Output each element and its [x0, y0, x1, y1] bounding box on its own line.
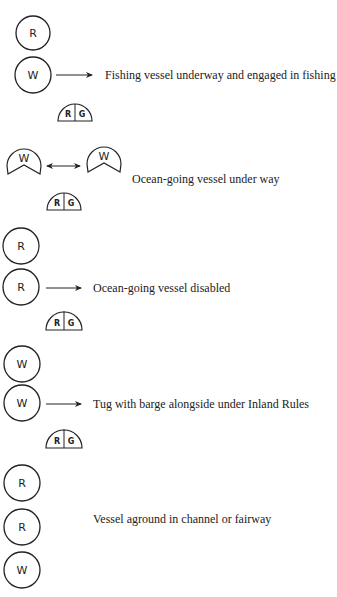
light-circle-white: W — [15, 57, 51, 93]
svg-text:R: R — [65, 110, 71, 119]
svg-text:R: R — [18, 521, 26, 534]
light-circle-red: R — [16, 16, 50, 50]
light-circle-red: R — [3, 269, 39, 305]
svg-text:W: W — [17, 358, 28, 371]
svg-text:G: G — [68, 437, 75, 446]
group-ocean-going-disabled: R R R G — [3, 228, 82, 330]
svg-text:W: W — [17, 397, 28, 410]
light-circle-white: W — [4, 552, 40, 588]
svg-text:W: W — [17, 564, 28, 577]
light-circle-white: W — [4, 385, 40, 421]
svg-text:R: R — [17, 281, 25, 294]
svg-text:G: G — [68, 199, 75, 208]
group-tug-with-barge: W W R G — [4, 346, 82, 448]
svg-text:W: W — [99, 150, 110, 163]
caption-vessel-aground: Vessel aground in channel or fairway — [93, 512, 271, 526]
svg-text:W: W — [28, 69, 39, 82]
group-vessel-aground: R R W — [4, 465, 40, 588]
caption-tug-with-barge: Tug with barge alongside under Inland Ru… — [93, 397, 309, 411]
svg-text:R: R — [18, 477, 26, 490]
svg-text:R: R — [54, 199, 60, 208]
caption-ocean-going-under-way: Ocean-going vessel under way — [132, 172, 280, 186]
caption-ocean-going-disabled: Ocean-going vessel disabled — [93, 281, 230, 295]
sidelights-semicircle: R G — [46, 429, 82, 448]
sidelights-semicircle: R G — [46, 311, 82, 330]
svg-text:R: R — [29, 27, 37, 40]
svg-text:G: G — [79, 110, 86, 119]
navigation-lights-diagram: R W R G W W R G — [0, 0, 337, 597]
masthead-light-white-forward: W — [7, 149, 41, 174]
light-circle-red: R — [3, 228, 39, 264]
group-ocean-going-under-way: W W R G — [7, 147, 121, 210]
light-circle-red: R — [4, 465, 40, 501]
svg-text:R: R — [54, 319, 60, 328]
caption-fishing-vessel: Fishing vessel underway and engaged in f… — [105, 68, 336, 82]
light-circle-white: W — [4, 346, 40, 382]
sidelights-semicircle: R G — [58, 104, 92, 121]
svg-text:R: R — [54, 437, 60, 446]
sidelights-semicircle: R G — [47, 193, 81, 210]
svg-text:G: G — [68, 319, 75, 328]
light-circle-red: R — [4, 509, 40, 545]
svg-text:W: W — [19, 152, 30, 165]
svg-text:R: R — [17, 240, 25, 253]
masthead-light-white-aft: W — [87, 147, 121, 172]
group-fishing-vessel: R W R G — [15, 16, 92, 121]
